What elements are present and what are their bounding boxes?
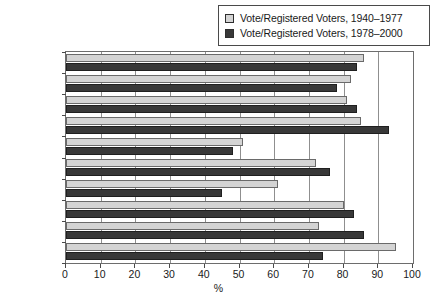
x-tick-label-70: 70 [302, 269, 314, 280]
x-tick-label-0: 0 [62, 269, 68, 280]
legend-swatch-dark [225, 29, 234, 38]
bar-chart: Vote/Registered Voters, 1940–1977 Vote/R… [0, 0, 437, 304]
legend-item-1978-2000: Vote/Registered Voters, 1978–2000 [225, 26, 423, 40]
x-tick-label-10: 10 [94, 269, 106, 280]
x-tick-label-50: 50 [233, 269, 245, 280]
y-axis-labels: ArgentinaBoliviaBrazilChileColombiaEcuad… [0, 51, 437, 264]
legend-label-1940-1977: Vote/Registered Voters, 1940–1977 [240, 13, 403, 24]
x-axis: 0102030405060708090100 [65, 264, 414, 284]
x-tick-label-30: 30 [163, 269, 175, 280]
x-tick-label-40: 40 [198, 269, 210, 280]
x-tick-label-100: 100 [403, 269, 421, 280]
x-tick-label-90: 90 [371, 269, 383, 280]
x-tick-label-60: 60 [267, 269, 279, 280]
legend-item-1940-1977: Vote/Registered Voters, 1940–1977 [225, 11, 423, 25]
x-tick-label-80: 80 [337, 269, 349, 280]
chart-legend: Vote/Registered Voters, 1940–1977 Vote/R… [218, 5, 430, 46]
x-tick-label-20: 20 [129, 269, 141, 280]
legend-swatch-light [225, 14, 234, 23]
x-axis-title: % [0, 283, 437, 294]
legend-label-1978-2000: Vote/Registered Voters, 1978–2000 [240, 28, 403, 39]
